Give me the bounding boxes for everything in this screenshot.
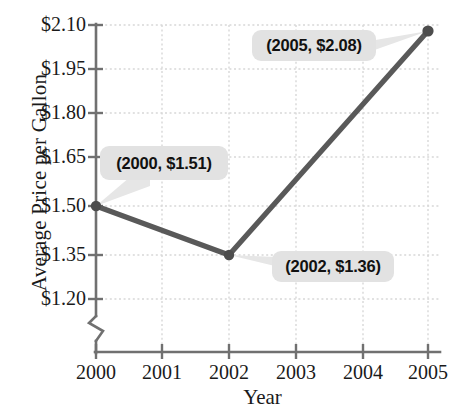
y-tick-label-180: $1.80	[20, 101, 86, 124]
x-axis-title: Year	[95, 385, 430, 410]
data-point-2005	[422, 25, 433, 36]
data-point-2000	[91, 201, 101, 211]
x-tick-label-2001: 2001	[142, 361, 182, 384]
x-tick-label-2003: 2003	[276, 361, 316, 384]
data-line	[96, 31, 428, 255]
y-tick-label-135: $1.35	[20, 243, 86, 266]
x-tick-label-2005: 2005	[408, 361, 448, 384]
gas-price-line-chart: Average Price per Gallon Year $2.10 $1.9…	[0, 0, 450, 416]
y-tick-label-210: $2.10	[20, 13, 86, 36]
annotation-2005: (2005, $2.08)	[252, 30, 376, 61]
x-tick-label-2004: 2004	[343, 361, 383, 384]
data-point-2002	[224, 250, 234, 260]
annotation-2000: (2000, $1.51)	[100, 146, 228, 180]
y-tick-label-165: $1.65	[20, 145, 86, 168]
annotation-2002: (2002, $1.36)	[272, 251, 394, 282]
y-axis	[89, 24, 103, 353]
y-axis-break-symbol	[89, 316, 103, 341]
x-tick-label-2000: 2000	[76, 361, 116, 384]
y-tick-label-195: $1.95	[20, 57, 86, 80]
y-tick-label-150: $1.50	[20, 194, 86, 217]
y-axis-title: Average Price per Gallon	[27, 48, 52, 318]
x-tick-label-2002: 2002	[209, 361, 249, 384]
y-tick-label-120: $1.20	[20, 287, 86, 310]
